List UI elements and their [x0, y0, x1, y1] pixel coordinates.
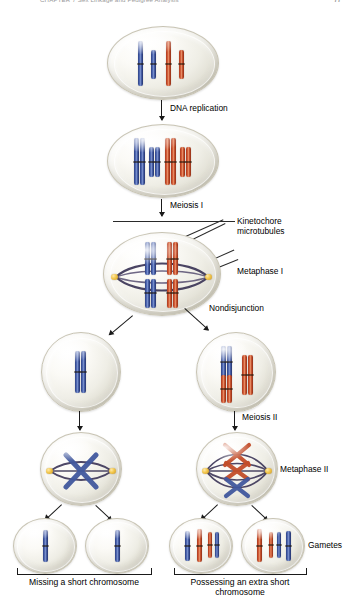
- chromosome-red-long: [166, 41, 171, 86]
- arrow-meiosis-ii: [234, 411, 235, 430]
- arrow-dna-replication: [161, 100, 162, 120]
- dyad-blue-short: [149, 147, 160, 177]
- dyad-red-short-metaphase: [167, 279, 178, 308]
- chromosome-red-short: [269, 532, 273, 558]
- cell-membrane: [245, 522, 303, 572]
- bracket-left: [17, 568, 152, 575]
- gamete-3: [169, 518, 233, 574]
- dyad-blue-long: [134, 138, 145, 185]
- cell-membrane: [201, 338, 273, 409]
- cell-membrane: [114, 31, 215, 96]
- arrow-meiosis-i: [161, 199, 162, 216]
- centrosome-right: [109, 468, 116, 474]
- caption-right: Possessing an extra short chromosome: [178, 577, 302, 598]
- metaphase-ii-cell-left: [40, 432, 122, 506]
- dyad-red-long-metaphase: [167, 242, 178, 275]
- caption-left: Missing a short chromosome: [8, 577, 160, 587]
- chromosome-blue-long: [43, 530, 48, 562]
- centrosome-right: [265, 468, 272, 474]
- chromosome-blue-short: [151, 50, 156, 79]
- dyad-red-short: [180, 147, 191, 177]
- dyad-blue-long-daughter-right: [221, 346, 232, 378]
- metaphase-i-cell: [103, 232, 221, 316]
- figure-meiosis-nondisjunction: CHAPTER 7 Sex Linkage and Pedigree Analy…: [0, 0, 355, 612]
- chromosome-blue-short: [215, 532, 219, 558]
- chromosome-blue-long: [138, 41, 143, 86]
- dyad-red-short-daughter-right: [221, 375, 232, 403]
- dyad-blue-long-metaphase: [145, 242, 156, 275]
- chromosome-red-short: [208, 532, 212, 558]
- daughter-cell-left: [41, 332, 121, 412]
- gamete-2: [85, 518, 149, 574]
- label-meiosis-i: Meiosis I: [170, 200, 203, 210]
- label-gametes: Gametes: [308, 540, 342, 550]
- dyad-blue-short-metaphase: [145, 279, 156, 308]
- spindle-apparatus: [104, 233, 220, 315]
- label-nondisjunction: Nondisjunction: [209, 303, 264, 313]
- label-meiosis-ii: Meiosis II: [242, 412, 277, 422]
- replicated-cell: [107, 124, 219, 198]
- bracket-right: [174, 568, 307, 575]
- arrow-to-metaphase-ii-left: [79, 411, 80, 430]
- chromosome-blue-long: [185, 531, 190, 561]
- chromosome-red-long: [257, 529, 262, 562]
- dyad-blue-long-daughter: [75, 351, 86, 393]
- running-head: CHAPTER 7 Sex Linkage and Pedigree Analy…: [0, 0, 355, 6]
- running-head-title: CHAPTER 7 Sex Linkage and Pedigree Analy…: [40, 0, 179, 3]
- gamete-1: [13, 518, 77, 574]
- arrow-to-daughter-left: [109, 315, 133, 335]
- daughter-cell-right: [196, 332, 276, 412]
- gamete-4: [241, 518, 305, 574]
- centrosome-right: [205, 274, 212, 280]
- label-dna-replication: DNA replication: [170, 103, 228, 113]
- label-kinetochore-microtubules: Kinetochore microtubules: [237, 216, 323, 236]
- page-number: 77: [334, 0, 341, 3]
- centrosome-left: [46, 468, 53, 474]
- chromosome-blue-short: [277, 532, 281, 558]
- metaphase-ii-cell-right: [196, 432, 278, 506]
- chromosome-blue-long: [286, 531, 291, 561]
- dyad-red-long: [165, 138, 176, 185]
- label-metaphase-ii: Metaphase II: [280, 464, 328, 474]
- leader-line-kinetochore-top: [113, 221, 235, 222]
- label-metaphase-i: Metaphase I: [237, 266, 283, 276]
- centrosome-left: [202, 468, 209, 474]
- dyad-red-long-daughter-right: [242, 355, 253, 395]
- parent-cell: [107, 26, 219, 100]
- chromosome-blue-long: [115, 530, 120, 562]
- centrosome-left: [111, 274, 118, 280]
- chromosome-red-long: [197, 529, 202, 562]
- chromosome-red-short: [179, 50, 184, 79]
